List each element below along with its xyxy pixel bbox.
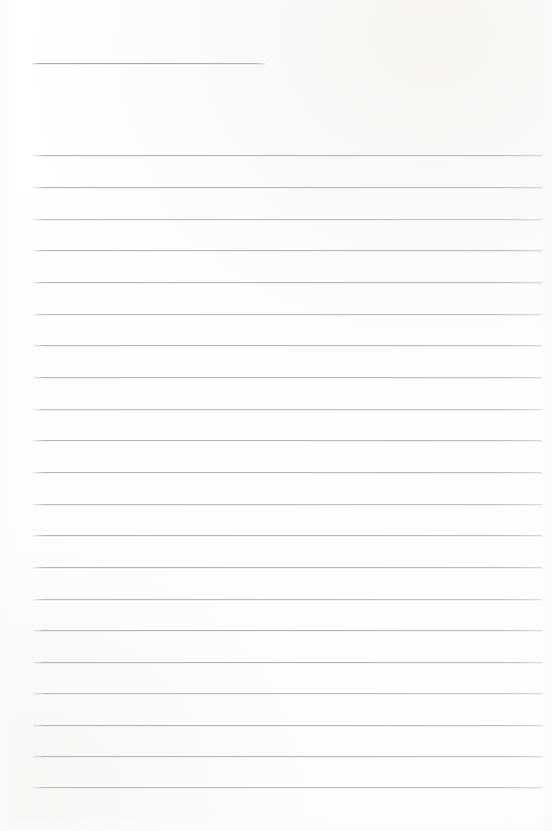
ruled-line bbox=[33, 377, 542, 378]
ruled-line bbox=[33, 314, 542, 315]
ruled-line bbox=[33, 567, 542, 568]
ruled-line bbox=[33, 155, 542, 156]
ruled-line bbox=[33, 219, 542, 220]
ruled-line bbox=[33, 693, 542, 694]
paper-page bbox=[0, 0, 552, 831]
ruled-line bbox=[33, 662, 542, 663]
ruled-line bbox=[33, 187, 542, 188]
paper-texture bbox=[0, 0, 552, 831]
title-underline-rule bbox=[32, 63, 265, 64]
ruled-line bbox=[33, 472, 542, 473]
ruled-line bbox=[33, 504, 542, 505]
ruled-line bbox=[33, 599, 542, 600]
ruled-line bbox=[33, 725, 542, 726]
ruled-line bbox=[33, 282, 542, 283]
ruled-line bbox=[33, 440, 542, 441]
ruled-line bbox=[33, 250, 542, 251]
ruled-line bbox=[33, 535, 542, 536]
ruled-line bbox=[33, 409, 542, 410]
ruled-line bbox=[33, 756, 542, 757]
ruled-line bbox=[33, 787, 542, 788]
ruled-line bbox=[33, 345, 542, 346]
ruled-line bbox=[33, 630, 542, 631]
scan-edge-shading bbox=[0, 0, 552, 831]
